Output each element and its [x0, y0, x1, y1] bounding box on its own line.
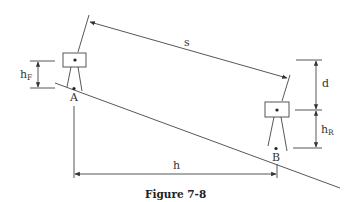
tripod-leg-a-right — [78, 67, 82, 91]
tripod-leg-a-left — [67, 67, 71, 87]
label-hr: hR — [321, 123, 334, 137]
instrument-a — [63, 53, 86, 91]
point-b-marker — [274, 147, 277, 150]
tripod-leg-b-right — [281, 117, 287, 151]
instrument-center-b — [275, 108, 278, 111]
label-s: s — [184, 36, 190, 49]
label-hf: hF — [20, 68, 32, 82]
figure-diagram: s hF A B h d hR Figure 7-8 — [0, 0, 357, 202]
extension-line-s-right — [282, 75, 290, 101]
extension-line-s-left — [78, 15, 89, 52]
point-a-marker — [72, 87, 75, 90]
instrument-b — [265, 102, 289, 151]
label-h: h — [173, 159, 180, 172]
tripod-leg-b-left — [268, 117, 274, 146]
label-b: B — [272, 151, 280, 164]
ground-line — [55, 83, 340, 188]
label-d: d — [322, 77, 329, 90]
figure-caption: Figure 7-8 — [145, 188, 206, 200]
label-a: A — [69, 91, 79, 104]
dimension-s — [90, 22, 287, 78]
instrument-center-a — [73, 58, 76, 61]
